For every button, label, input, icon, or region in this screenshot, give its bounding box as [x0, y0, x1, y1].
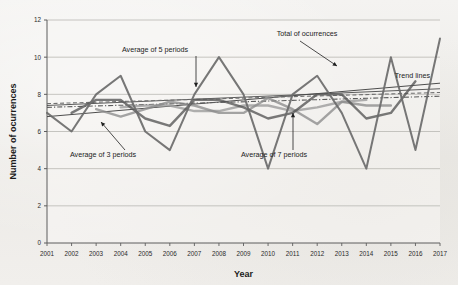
x-tick-label: 2014 — [359, 250, 374, 257]
y-tick-label: 6 — [37, 128, 41, 135]
x-tick-label: 2006 — [163, 250, 178, 257]
y-tick-label: 0 — [37, 239, 41, 246]
x-tick-label: 2005 — [138, 250, 153, 257]
x-tick-label: 2008 — [212, 250, 227, 257]
annotation-total: Total of ocurrences — [277, 29, 338, 38]
annotation-average-3: Average of 3 periods — [70, 150, 137, 159]
y-tick-label: 8 — [37, 91, 41, 98]
x-tick-label: 2001 — [40, 250, 55, 257]
x-tick-label: 2003 — [89, 250, 104, 257]
x-tick-label: 2011 — [286, 250, 300, 257]
y-tick-label: 2 — [37, 202, 41, 209]
line-chart: 0246810122001200220032004200520062007200… — [0, 0, 458, 285]
x-tick-label: 2012 — [310, 250, 325, 257]
y-tick-label: 4 — [37, 165, 41, 172]
x-tick-label: 2010 — [261, 250, 276, 257]
annotation-trend-lines: Trend lines — [395, 71, 431, 80]
annotation-average-5: Average of 5 periods — [122, 45, 189, 54]
annotation-average-7: Average of 7 periods — [241, 150, 308, 159]
y-tick-label: 12 — [34, 16, 42, 23]
x-tick-label: 2015 — [384, 250, 399, 257]
x-tick-label: 2004 — [114, 250, 129, 257]
x-tick-label: 2009 — [236, 250, 251, 257]
chart-figure: 0246810122001200220032004200520062007200… — [0, 0, 458, 285]
x-tick-label: 2007 — [187, 250, 202, 257]
x-axis-title: Year — [234, 269, 254, 279]
x-tick-label: 2016 — [408, 250, 423, 257]
y-tick-label: 10 — [34, 54, 42, 61]
y-axis-title: Number of ocurrences — [8, 83, 18, 179]
x-tick-label: 2017 — [433, 250, 448, 257]
x-tick-label: 2002 — [65, 250, 80, 257]
x-tick-label: 2013 — [335, 250, 350, 257]
